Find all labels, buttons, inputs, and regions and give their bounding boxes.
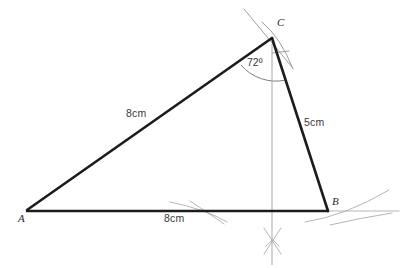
vertex-label-b: B (332, 196, 339, 207)
triangle-side-ac (27, 38, 272, 210)
length-label-side-cb: 5cm (304, 117, 324, 128)
length-label-side-ac: 8cm (126, 108, 146, 119)
construction-arc-at-b-flat (330, 213, 392, 225)
diagram-canvas (0, 0, 401, 268)
geometry-diagram: A B C 8cm 5cm 8cm 72º (0, 0, 401, 268)
construction-arc-at-b-rising (305, 190, 389, 222)
vertex-label-a: A (18, 213, 25, 224)
construction-arc-ab-lower (190, 201, 224, 224)
length-label-side-ab: 8cm (164, 213, 184, 224)
angle-label-c: 72º (247, 57, 263, 68)
vertex-label-c: C (277, 17, 284, 28)
